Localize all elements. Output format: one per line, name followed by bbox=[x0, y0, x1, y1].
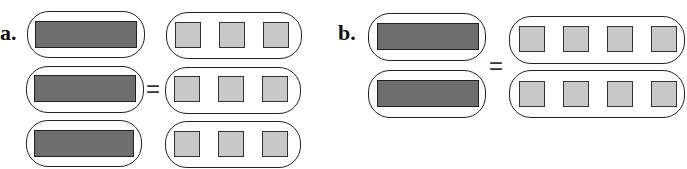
part-b-left-group-1 bbox=[368, 13, 486, 61]
unit-square bbox=[218, 131, 244, 157]
unit-square bbox=[174, 131, 200, 157]
part-b-left-group-2 bbox=[368, 70, 486, 118]
unit-square bbox=[219, 22, 245, 48]
part-b-right-group-2 bbox=[509, 70, 685, 118]
part-b-label: b. bbox=[338, 22, 356, 44]
unit-square bbox=[651, 26, 677, 52]
unit-square bbox=[262, 76, 288, 102]
long-bar bbox=[34, 130, 134, 157]
part-a-right-group-3 bbox=[165, 121, 301, 168]
unit-square bbox=[174, 76, 200, 102]
unit-square bbox=[218, 76, 244, 102]
unit-square bbox=[262, 131, 288, 157]
part-a-left-group-3 bbox=[26, 120, 142, 167]
unit-square bbox=[563, 81, 589, 107]
unit-square bbox=[175, 22, 201, 48]
long-bar bbox=[377, 23, 479, 50]
part-a-left-group-1 bbox=[27, 11, 145, 58]
unit-square bbox=[519, 26, 545, 52]
unit-square bbox=[519, 81, 545, 107]
long-bar bbox=[377, 80, 479, 107]
part-a-equals-sign: = bbox=[146, 77, 160, 101]
part-b-right-group-1 bbox=[509, 16, 685, 64]
long-bar bbox=[34, 75, 136, 102]
long-bar bbox=[35, 21, 137, 48]
unit-square bbox=[263, 22, 289, 48]
part-b-equals-sign: = bbox=[489, 54, 503, 78]
part-a-right-group-1 bbox=[166, 12, 302, 59]
part-a-right-group-2 bbox=[165, 67, 301, 114]
unit-square bbox=[563, 26, 589, 52]
unit-square bbox=[607, 81, 633, 107]
part-a-left-group-2 bbox=[26, 66, 144, 113]
unit-square bbox=[651, 81, 677, 107]
unit-square bbox=[607, 26, 633, 52]
part-a-label: a. bbox=[0, 22, 17, 44]
